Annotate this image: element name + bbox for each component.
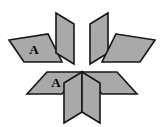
figure-canvas: AA	[0, 0, 164, 127]
parallelogram-star-diagram: AA	[0, 0, 164, 127]
